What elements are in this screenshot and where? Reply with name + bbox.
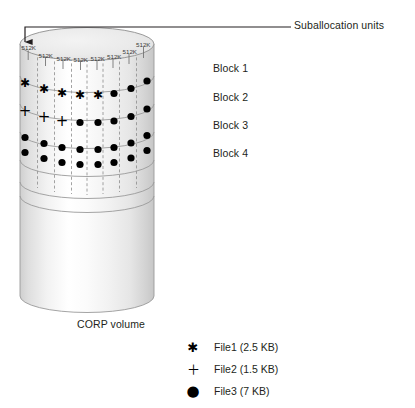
legend-item-file1: ✱ File1 (2.5 KB) [183,336,383,358]
marker-plus: + [56,112,69,130]
marker-dot [143,132,150,139]
marker-dot [76,119,83,126]
plus-marker-icon: ＋ [183,363,203,376]
dot-marker-icon: ● [183,384,203,399]
marker-dot [127,154,134,161]
marker-dot [110,90,117,97]
asterisk-marker-icon: ✱ [183,341,203,354]
marker-dot [21,149,28,156]
block-label-1: Block 1 [213,62,248,74]
marker-dot [21,134,28,141]
marker-asterisk: ✱ [93,88,103,102]
marker-plus: + [19,102,32,120]
marker-dot [110,159,117,166]
marker-dot [127,139,134,146]
legend-label-file1: File1 (2.5 KB) [214,341,278,353]
marker-asterisk: ✱ [20,76,30,90]
unit-label-3: 512K [57,55,72,62]
unit-label-1: 512K [22,44,37,51]
unit-label-4: 512K [74,56,89,63]
block-label-2: Block 2 [213,91,248,103]
legend: ✱ File1 (2.5 KB) ＋ File2 (1.5 KB) ● File… [183,336,383,402]
marker-dot [40,140,47,147]
marker-asterisk: ✱ [75,88,85,102]
legend-item-file2: ＋ File2 (1.5 KB) [183,358,383,380]
unit-label-6: 512K [107,53,122,60]
marker-dot [127,85,134,92]
marker-dot [110,117,117,124]
marker-dot [58,144,65,151]
marker-dot [58,159,65,166]
marker-dot [127,113,134,120]
marker-dot [94,146,101,153]
marker-dot [94,161,101,168]
legend-label-file2: File2 (1.5 KB) [214,363,278,375]
marker-dot [143,147,150,154]
marker-asterisk: ✱ [39,82,49,96]
legend-label-file3: File3 (7 KB) [214,385,269,397]
marker-dot [143,105,150,112]
marker-dot [94,119,101,126]
figure-canvas: 512K 512K 512K 512K 512K 512K 512K 512K … [0,0,415,408]
block-label-3: Block 3 [213,119,248,131]
legend-item-file3: ● File3 (7 KB) [183,380,383,402]
unit-label-8: 512K [136,41,151,48]
marker-dot [76,146,83,153]
marker-asterisk: ✱ [57,86,67,100]
marker-dot [40,155,47,162]
marker-dot [110,144,117,151]
callout-label: Suballocation units [294,19,384,31]
marker-plus: + [38,108,51,126]
unit-label-2: 512K [39,52,54,59]
marker-dot [76,161,83,168]
marker-dot [143,77,150,84]
block-label-4: Block 4 [213,147,248,159]
unit-label-5: 512K [91,55,106,62]
unit-label-7: 512K [123,48,138,55]
volume-label: CORP volume [77,318,145,330]
